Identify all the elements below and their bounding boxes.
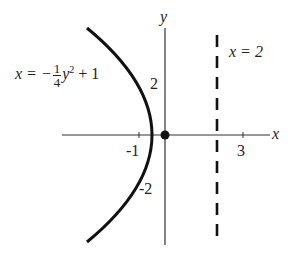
- equation-lhs: x = −: [15, 65, 52, 82]
- focus-point: [161, 131, 170, 140]
- equation-fraction: 14: [53, 62, 62, 89]
- x-tick-label-3: 3: [237, 143, 245, 159]
- directrix-label: x = 2: [229, 44, 263, 60]
- graph-canvas: [0, 0, 303, 254]
- fraction-denominator: 4: [53, 76, 62, 89]
- x-axis-label: x: [272, 126, 279, 142]
- y-axis-label: y: [160, 9, 167, 25]
- equation-label: x = −14y2 + 1: [15, 62, 99, 89]
- y-tick-label-neg2: -2: [139, 181, 152, 197]
- directrix-label-text: x = 2: [229, 43, 263, 60]
- y-tick-label-2: 2: [150, 76, 158, 92]
- x-tick-label-neg1: -1: [126, 143, 139, 159]
- fraction-numerator: 1: [53, 62, 62, 76]
- equation-rest: + 1: [74, 65, 99, 82]
